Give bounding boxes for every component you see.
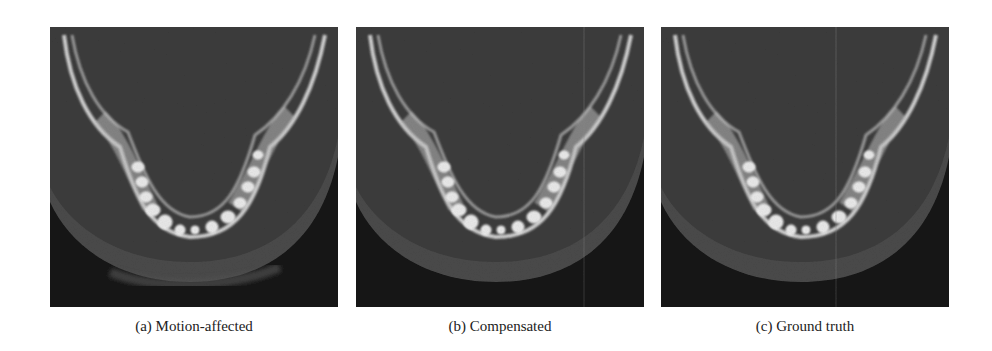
panel-b-image [356, 27, 644, 307]
caption-c: (c) Ground truth [661, 318, 949, 335]
caption-b: (b) Compensated [356, 318, 644, 335]
caption-a: (a) Motion-affected [50, 318, 338, 335]
panel-c-image [661, 27, 949, 307]
panel-a-image [50, 27, 338, 307]
